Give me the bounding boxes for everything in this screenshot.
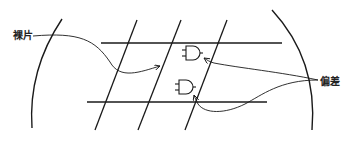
and-gate-icon-lower bbox=[175, 80, 196, 94]
die-leader-arrow bbox=[33, 35, 160, 73]
scribe-line-diagonal-3 bbox=[185, 20, 227, 130]
scribe-line-diagonal-1 bbox=[95, 20, 137, 130]
die-label: 裸片 bbox=[13, 31, 33, 41]
wafer-right-edge bbox=[272, 10, 313, 130]
offset-leader-arrow-lower bbox=[194, 80, 318, 112]
offset-label: 偏差 bbox=[320, 77, 340, 87]
and-gate-icon-upper bbox=[182, 46, 203, 60]
wafer-die-diagram bbox=[0, 0, 354, 144]
scribe-line-diagonal-2 bbox=[138, 20, 181, 130]
offset-leader-arrow-upper bbox=[204, 58, 318, 80]
